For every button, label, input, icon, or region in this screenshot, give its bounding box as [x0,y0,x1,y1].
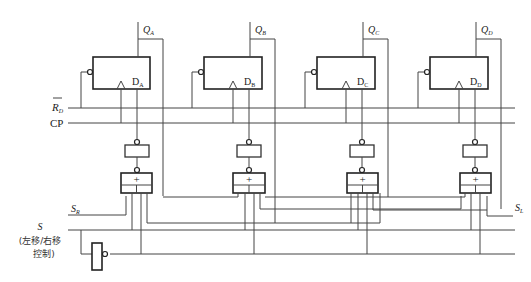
select-label: S [38,221,43,232]
output-inverter-d [463,145,487,157]
reset-label: RD [51,101,64,114]
serial-left-label: SL [515,202,524,214]
or-symbol: + [246,173,252,185]
output-inverter-c [350,145,374,157]
inverter-input-wire [81,230,92,254]
q-label-a: QA [143,24,154,36]
or-symbol: + [133,173,139,185]
q-label-c: QC [368,24,380,36]
output-inverter-b [237,145,261,157]
inverter-bubble-icon [103,252,108,257]
output-inverter-a [125,145,149,157]
select-note-line1: (左移/右移 [19,235,62,246]
inverter-gate [92,243,102,270]
serial-left-input-wire [487,196,513,216]
q-label-b: QB [255,24,266,36]
or-symbol: + [359,173,365,185]
stage-b [163,22,461,254]
clock-label: CP [50,117,63,129]
or-symbol: + [472,173,478,185]
q-label-d: QD [481,24,493,36]
select-note-line2: 控制) [33,248,55,259]
stage-d [388,22,501,254]
shift-register-diagram: + + + + QA QB QC QD DA DB DC DD RD CP SR… [0,0,531,282]
reset-bubble-icon [88,70,93,75]
serial-right-label: SR [71,203,80,215]
